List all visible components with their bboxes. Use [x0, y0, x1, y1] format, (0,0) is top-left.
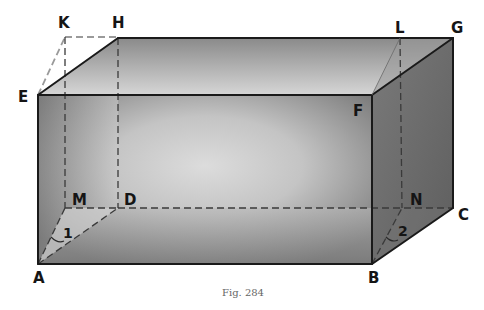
- angle-label-2: 2: [398, 223, 408, 239]
- label-G: G: [451, 19, 463, 37]
- box-diagram: K H E F L G M D N C A B 1 2 Fig. 284: [0, 0, 484, 310]
- figure-caption: Fig. 284: [222, 287, 264, 298]
- label-M: M: [72, 191, 87, 209]
- label-K: K: [58, 14, 71, 32]
- label-H: H: [112, 14, 125, 32]
- label-N: N: [410, 191, 423, 209]
- label-C: C: [458, 206, 469, 224]
- label-L: L: [395, 19, 405, 37]
- label-E: E: [18, 88, 28, 106]
- label-F: F: [353, 102, 363, 120]
- angle-label-1: 1: [63, 225, 73, 241]
- label-B: B: [368, 269, 379, 287]
- label-D: D: [124, 191, 136, 209]
- label-A: A: [33, 269, 45, 287]
